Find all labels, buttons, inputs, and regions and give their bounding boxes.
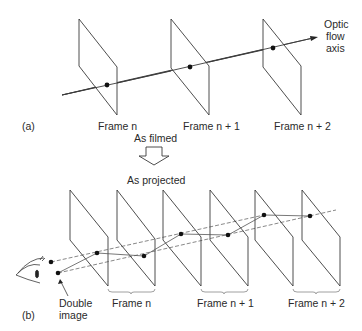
double-image-pointer: [58, 279, 68, 296]
frame-braces: [108, 289, 340, 294]
as-filmed-label: As filmed: [134, 132, 177, 144]
dot-frame-b-4: [226, 233, 231, 238]
dot-frame-b-2: [142, 254, 147, 259]
frame-b-label-2: Frame n + 1: [197, 297, 254, 309]
panel-b-tag: (b): [22, 309, 35, 321]
dot-frame-a-1: [105, 83, 110, 88]
frame-b-5: [255, 190, 293, 286]
double-image-dot-1: [49, 260, 54, 265]
dot-frame-b-3: [179, 232, 184, 237]
optic-flow-axis-label-3: axis: [326, 42, 345, 54]
frame-b-label-3: Frame n + 2: [288, 297, 345, 309]
double-image-label-1: Double: [59, 297, 92, 309]
dot-frame-a-3: [271, 46, 276, 51]
panel-b-frames: [70, 190, 340, 286]
double-image-dot-2: [56, 271, 61, 276]
frame-b-6: [302, 190, 340, 286]
frame-a-label-1: Frame n: [98, 120, 137, 132]
double-image-label-2: image: [59, 309, 88, 321]
optic-flow-axis-label-2: flow: [326, 30, 345, 42]
dot-frame-b-1: [95, 251, 100, 256]
frame-b-3: [163, 190, 201, 286]
panel-a-tag: (a): [22, 120, 35, 132]
dot-frame-a-2: [188, 65, 193, 70]
hollow-down-arrow-icon: [139, 147, 169, 165]
frame-b-2: [117, 190, 155, 286]
brace-frame-n-plus-1: [201, 289, 248, 294]
frame-a-1: [79, 19, 117, 115]
as-projected-label: As projected: [127, 174, 186, 186]
frame-a-label-3: Frame n + 2: [274, 120, 331, 132]
frame-a-label-2: Frame n + 1: [183, 120, 240, 132]
frame-b-label-1: Frame n: [112, 297, 151, 309]
frame-b-4: [210, 190, 248, 286]
brace-frame-n: [108, 289, 155, 294]
pointer-arrowhead-icon: [58, 279, 63, 284]
optic-flow-axis-label: Optic: [324, 18, 349, 30]
dot-frame-b-6: [308, 214, 313, 219]
brace-frame-n-plus-2: [293, 289, 340, 294]
optic-flow-diagram: (a) Frame n Frame n + 1 Frame n + 2 Opti…: [0, 0, 362, 331]
dot-frame-b-5: [262, 213, 267, 218]
eye-icon: [16, 256, 45, 283]
frame-a-3: [263, 19, 301, 115]
frame-b-1: [70, 190, 108, 286]
